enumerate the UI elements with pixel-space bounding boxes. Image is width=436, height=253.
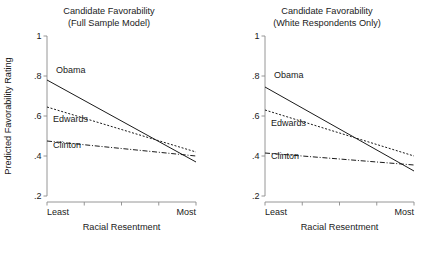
series-label-clinton: Clinton (53, 140, 81, 150)
y-tick-label: .6 (34, 111, 42, 121)
x-tick-label: Least (265, 207, 288, 217)
y-tick-label: .2 (34, 191, 42, 201)
y-tick-label: .6 (252, 111, 260, 121)
series-label-edwards: Edwards (53, 114, 89, 124)
y-tick-label: .8 (252, 71, 260, 81)
x-axis-title: Racial Resentment (301, 222, 379, 232)
x-tick-label: Most (176, 207, 196, 217)
y-tick-label: 1 (254, 31, 259, 41)
y-axis-title: Predicted Favorability Rating (3, 57, 13, 174)
series-label-obama: Obama (274, 70, 304, 80)
y-tick-label: .8 (34, 71, 42, 81)
series-label-edwards: Edwards (271, 118, 307, 128)
y-tick-label: 1 (36, 31, 41, 41)
panel-right-plot: 1.8.6.4.2LeastMostRacial ResentmentObama… (218, 0, 436, 253)
panel-left: Candidate Favorability (Full Sample Mode… (0, 0, 218, 253)
x-axis-title: Racial Resentment (83, 222, 161, 232)
x-tick-label: Most (394, 207, 414, 217)
x-tick-label: Least (47, 207, 70, 217)
panel-left-plot: 1.8.6.4.2Predicted Favorability RatingLe… (0, 0, 218, 253)
y-tick-label: .4 (252, 151, 260, 161)
figure-two-panel-line-charts: Candidate Favorability (Full Sample Mode… (0, 0, 436, 253)
y-tick-label: .4 (34, 151, 42, 161)
panel-right: Candidate Favorability (White Respondent… (218, 0, 436, 253)
y-tick-label: .2 (252, 191, 260, 201)
series-label-clinton: Clinton (271, 151, 299, 161)
series-label-obama: Obama (56, 65, 86, 75)
